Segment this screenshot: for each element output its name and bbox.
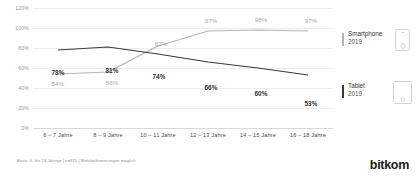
- x-tick-label-0: 6 – 7 Jahre: [43, 132, 73, 138]
- legend-label-smartphone: Smartphone 2019: [348, 30, 382, 46]
- y-tick-label-0: 0%: [21, 125, 29, 131]
- data-label-tablet-0: 78%: [51, 69, 64, 76]
- bitkom-logo: bitkom: [370, 158, 409, 172]
- y-tick-label-60: 60%: [18, 65, 29, 71]
- y-tick-label-20: 20%: [18, 105, 29, 111]
- legend-item-smartphone[interactable]: Smartphone 2019: [342, 30, 419, 60]
- data-label-tablet-5: 53%: [304, 100, 317, 107]
- x-tick-label-4: 14 – 15 Jahre: [240, 132, 276, 138]
- legend-swatch-tablet: [342, 85, 344, 98]
- smartphone-icon: [395, 29, 410, 51]
- data-label-tablet-2: 74%: [152, 73, 165, 80]
- chart-legend: Smartphone 2019 Tablet 2019: [342, 30, 419, 134]
- y-tick-label-40: 40%: [18, 85, 29, 91]
- x-axis-line: [33, 128, 333, 129]
- legend-label-tablet: Tablet 2019: [348, 82, 365, 98]
- data-label-smartphone-3: 97%: [205, 17, 218, 24]
- x-tick-label-1: 8 – 9 Jahre: [93, 132, 123, 138]
- tablet-icon: [393, 81, 412, 104]
- plot-area: 120% 100% 80% 60% 40% 20% 0% 6 – 7 Jahre…: [33, 8, 333, 128]
- legend-item-tablet[interactable]: Tablet 2019: [342, 82, 419, 112]
- legend-label-tablet-name: Tablet: [348, 82, 365, 89]
- x-tick-label-3: 12 – 13 Jahre: [190, 132, 226, 138]
- x-tick-label-5: 16 – 18 Jahre: [290, 132, 326, 138]
- legend-label-smartphone-year: 2019: [348, 38, 362, 45]
- chart-container: 120% 100% 80% 60% 40% 20% 0% 6 – 7 Jahre…: [0, 0, 419, 179]
- line-smartphone: [58, 30, 308, 74]
- data-label-smartphone-0: 54%: [52, 80, 65, 87]
- y-tick-label-80: 80%: [18, 45, 29, 51]
- legend-label-tablet-year: 2019: [348, 90, 362, 97]
- chart-footnote: Basis: 6- bis 18-Jährige | n=915 | Mehrf…: [17, 158, 136, 163]
- legend-swatch-smartphone: [342, 33, 344, 46]
- y-tick-label-120: 120%: [15, 5, 29, 11]
- y-tick-label-100: 100%: [15, 25, 29, 31]
- data-label-tablet-4: 60%: [254, 90, 267, 97]
- series-lines: [33, 8, 333, 128]
- data-label-smartphone-2: 82%: [155, 40, 168, 47]
- data-label-smartphone-4: 98%: [255, 16, 268, 23]
- line-tablet: [58, 47, 308, 75]
- data-label-tablet-3: 66%: [204, 84, 217, 91]
- data-label-smartphone-1: 56%: [106, 79, 119, 86]
- legend-label-smartphone-name: Smartphone: [348, 30, 382, 37]
- data-label-tablet-1: 81%: [105, 67, 118, 74]
- x-tick-label-2: 10 – 11 Jahre: [140, 132, 176, 138]
- data-label-smartphone-5: 97%: [305, 17, 318, 24]
